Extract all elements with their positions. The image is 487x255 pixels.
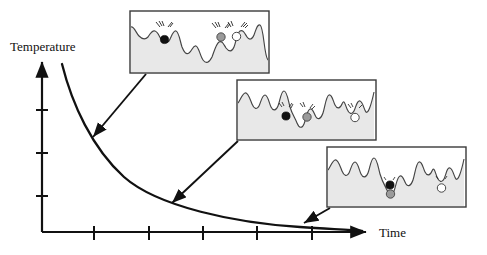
ball-black	[282, 112, 290, 120]
ball-white	[437, 184, 445, 192]
ball-black	[386, 181, 394, 189]
x-axis-label: Time	[379, 225, 406, 240]
ball-gray	[386, 190, 394, 198]
ball-white	[232, 32, 240, 40]
arrow-inset-2-to-curve	[172, 141, 238, 203]
arrow-inset-1-to-curve	[93, 74, 146, 137]
ball-white	[351, 113, 359, 121]
figure-canvas: Temperature Time	[0, 0, 487, 255]
arrow-inset-3-to-curve	[304, 208, 330, 223]
ball-gray	[217, 33, 225, 41]
y-axis-label: Temperature	[10, 39, 76, 54]
ball-black	[160, 35, 168, 43]
inset-medium-temperature	[237, 80, 376, 140]
annealing-diagram: Temperature Time	[0, 0, 487, 255]
inset-low-temperature	[327, 147, 466, 207]
ball-gray	[303, 113, 311, 121]
inset-high-temperature	[130, 11, 269, 73]
